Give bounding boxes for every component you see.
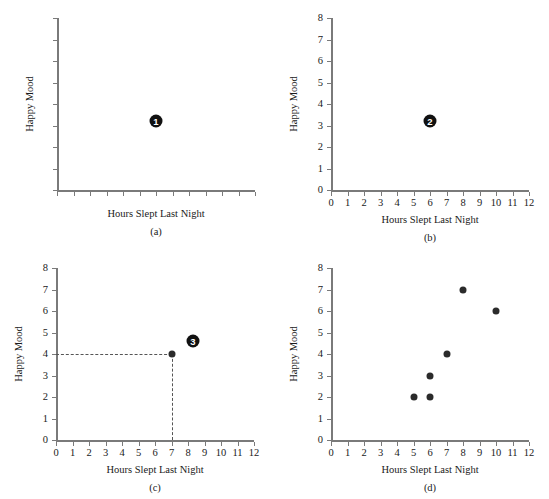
y-axis-tick (327, 83, 331, 84)
guide-line-horizontal (56, 354, 172, 355)
y-axis-tick (53, 104, 57, 105)
x-axis-tick (238, 442, 239, 446)
y-axis-tick (327, 18, 331, 19)
x-axis-tick-label: 7 (444, 448, 449, 459)
x-axis-tick (73, 442, 74, 446)
y-axis-line (331, 268, 333, 442)
x-axis-tick (106, 442, 107, 446)
x-axis-tick (206, 192, 207, 196)
chart-panel-c: 01234567891011120123456783Hours Slept La… (0, 250, 274, 499)
x-axis-tick (139, 442, 140, 446)
y-axis-tick (327, 268, 331, 269)
y-axis-title: Happy Mood (288, 326, 299, 382)
x-axis-tick (56, 442, 57, 446)
y-axis-tick (327, 440, 331, 441)
x-axis-tick-label: 12 (249, 448, 260, 459)
x-axis-title: Hours Slept Last Night (106, 464, 203, 475)
y-axis-tick (327, 419, 331, 420)
x-axis-tick (397, 442, 398, 446)
y-axis-tick (327, 104, 331, 105)
y-axis-tick (327, 126, 331, 127)
x-axis-tick-label: 8 (460, 198, 465, 209)
x-axis-tick-label: 8 (185, 448, 190, 459)
y-axis-tick (53, 169, 57, 170)
x-axis-tick (140, 192, 141, 196)
x-axis-tick-label: 9 (477, 448, 482, 459)
x-axis-tick-label: 10 (491, 198, 502, 209)
y-axis-tick (53, 83, 57, 84)
y-axis-tick-label: 7 (309, 284, 323, 295)
x-axis-tick (123, 192, 124, 196)
y-axis-tick-label: 4 (309, 349, 323, 360)
data-point (427, 394, 434, 401)
y-axis-tick-label: 2 (309, 142, 323, 153)
x-axis-tick (189, 192, 190, 196)
x-axis-tick (480, 192, 481, 196)
x-axis-tick (463, 442, 464, 446)
y-axis-tick (327, 376, 331, 377)
y-axis-tick (53, 61, 57, 62)
x-axis-tick-label: 12 (524, 448, 535, 459)
y-axis-tick-label: 7 (309, 34, 323, 45)
panel-caption-b: (b) (424, 232, 436, 243)
x-axis-tick (414, 192, 415, 196)
figure-panel-grid: 1Hours Slept Last NightHappy Mood(a) 012… (0, 0, 549, 499)
y-axis-title: Happy Mood (24, 76, 35, 132)
callout-badge-1: 1 (150, 115, 163, 128)
data-point (427, 372, 434, 379)
y-axis-tick-label: 6 (309, 306, 323, 317)
x-axis-tick-label: 5 (136, 448, 141, 459)
x-axis-tick (430, 192, 431, 196)
x-axis-tick (155, 442, 156, 446)
x-axis-tick (348, 192, 349, 196)
x-axis-tick-label: 11 (232, 448, 242, 459)
y-axis-line (57, 18, 59, 192)
y-axis-tick (327, 61, 331, 62)
y-axis-tick-label: 8 (309, 263, 323, 274)
x-axis-tick-label: 7 (444, 198, 449, 209)
y-axis-tick (52, 311, 56, 312)
y-axis-tick-label: 0 (309, 185, 323, 196)
x-axis-tick-label: 3 (378, 448, 383, 459)
y-axis-tick (53, 40, 57, 41)
x-axis-tick-label: 3 (103, 448, 108, 459)
x-axis-tick-label: 0 (328, 448, 333, 459)
x-axis-tick-label: 8 (460, 448, 465, 459)
y-axis-tick-label: 5 (34, 327, 48, 338)
x-axis-tick (90, 192, 91, 196)
x-axis-tick (156, 192, 157, 196)
x-axis-tick-label: 2 (361, 448, 366, 459)
x-axis-tick (397, 192, 398, 196)
x-axis-tick-label: 6 (427, 448, 432, 459)
x-axis-tick-label: 0 (328, 198, 333, 209)
y-axis-tick-label: 7 (34, 284, 48, 295)
data-point (443, 351, 450, 358)
x-axis-tick (331, 192, 332, 196)
x-axis-tick (513, 442, 514, 446)
y-axis-tick-label: 6 (34, 306, 48, 317)
y-axis-tick-label: 8 (309, 13, 323, 24)
x-axis-title: Hours Slept Last Night (107, 208, 204, 219)
guide-line-vertical (172, 354, 173, 440)
x-axis-tick (188, 442, 189, 446)
y-axis-tick (52, 397, 56, 398)
y-axis-tick (327, 290, 331, 291)
x-axis-tick-label: 4 (119, 448, 124, 459)
x-axis-tick (172, 442, 173, 446)
y-axis-tick-label: 0 (309, 435, 323, 446)
x-axis-tick-label: 2 (86, 448, 91, 459)
x-axis-tick (222, 192, 223, 196)
y-axis-tick-label: 3 (309, 370, 323, 381)
chart-panel-d: 0123456789101112012345678Hours Slept Las… (275, 250, 549, 499)
x-axis-tick-label: 3 (378, 198, 383, 209)
y-axis-tick-label: 1 (34, 413, 48, 424)
x-axis-tick (57, 192, 58, 196)
y-axis-tick-label: 8 (34, 263, 48, 274)
y-axis-tick (52, 440, 56, 441)
x-axis-tick-label: 12 (524, 198, 535, 209)
chart-panel-a: 1Hours Slept Last NightHappy Mood(a) (0, 0, 274, 249)
x-axis-tick-label: 1 (345, 198, 350, 209)
callout-badge-3: 3 (186, 335, 199, 348)
x-axis-tick-label: 11 (507, 448, 517, 459)
x-axis-tick-label: 2 (361, 198, 366, 209)
